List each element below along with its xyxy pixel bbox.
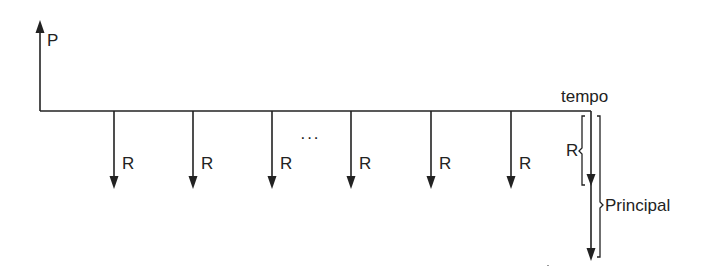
arrowhead-up-icon — [36, 20, 45, 33]
arrowhead-down-icon — [507, 176, 516, 189]
final-r-brace — [579, 116, 585, 185]
present-value-label: P — [47, 32, 58, 49]
payment-label-2: R — [201, 155, 213, 172]
arrowhead-down-icon — [189, 176, 198, 189]
cash-flow-diagram — [0, 0, 713, 275]
arrowhead-down-icon — [587, 248, 596, 261]
payment-label-6: R — [519, 155, 531, 172]
stray-mark — [547, 265, 549, 266]
arrowhead-down-icon — [587, 174, 596, 186]
ellipsis-label: ··· — [300, 129, 320, 146]
payment-label-5: R — [439, 155, 451, 172]
time-axis-label: tempo — [561, 88, 608, 105]
arrowhead-down-icon — [347, 176, 356, 189]
payment-label-3: R — [280, 155, 292, 172]
arrowhead-down-icon — [110, 176, 119, 189]
final-payment-label: R — [566, 142, 578, 159]
arrowhead-down-icon — [268, 176, 277, 189]
payment-label-1: R — [122, 155, 134, 172]
arrowhead-down-icon — [427, 176, 436, 189]
principal-brace — [597, 116, 603, 257]
principal-label: Principal — [605, 197, 670, 214]
payment-label-4: R — [359, 155, 371, 172]
